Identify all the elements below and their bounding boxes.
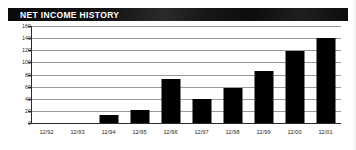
bar: [285, 51, 304, 123]
bar-slot: [63, 26, 94, 123]
chart-screenshot: NET INCOME HISTORY 020406080100120140160…: [0, 0, 356, 150]
bar: [316, 38, 335, 123]
plot-area: [31, 26, 341, 124]
x-axis-tick-label: 12/93: [62, 128, 93, 136]
title-banner: NET INCOME HISTORY: [8, 8, 348, 21]
bar-slot: [156, 26, 187, 123]
bar: [223, 88, 242, 123]
x-axis-tick-label: 12/01: [310, 128, 341, 136]
bar-slot: [94, 26, 125, 123]
bar-slot: [279, 26, 310, 123]
x-axis: 12/9212/9312/9412/9512/9612/9712/9812/99…: [31, 128, 341, 138]
bar-slot: [248, 26, 279, 123]
page-title: NET INCOME HISTORY: [20, 9, 119, 21]
x-axis-tick-label: 12/95: [124, 128, 155, 136]
bar: [192, 99, 211, 123]
x-axis-tick-label: 12/99: [248, 128, 279, 136]
bar-slot: [125, 26, 156, 123]
bar: [254, 71, 273, 123]
x-axis-tick-label: 12/94: [93, 128, 124, 136]
bar-slot: [217, 26, 248, 123]
x-axis-tick-label: 12/92: [31, 128, 62, 136]
y-axis: 020406080100120140160: [8, 24, 31, 125]
bar: [162, 79, 181, 123]
x-axis-tick-label: 12/96: [155, 128, 186, 136]
bar-series: [32, 26, 341, 123]
x-axis-tick-label: 12/97: [186, 128, 217, 136]
x-axis-tick-label: 12/00: [279, 128, 310, 136]
bar-chart: 020406080100120140160 12/9212/9312/9412/…: [8, 24, 348, 140]
bar-slot: [32, 26, 63, 123]
bar-slot: [187, 26, 218, 123]
x-axis-tick-label: 12/98: [217, 128, 248, 136]
page-edge-shadow: [352, 0, 356, 150]
bar: [131, 110, 150, 123]
bar: [100, 115, 119, 123]
bar-slot: [310, 26, 341, 123]
